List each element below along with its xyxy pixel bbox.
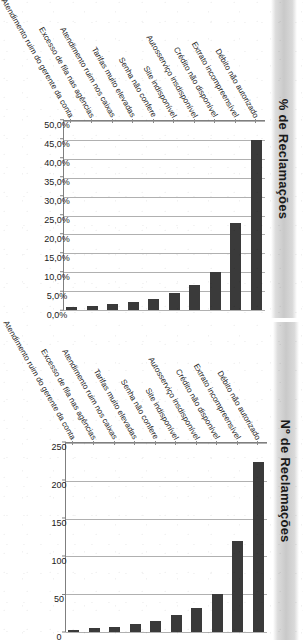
bar-row [107, 121, 118, 310]
bar-row [171, 443, 182, 632]
gridline [64, 310, 265, 311]
bar-row [253, 443, 264, 632]
chart-title-band-numero: Nº de Reclamações [273, 322, 299, 640]
category-labels-percent: Débito não autorizadoExtrato incompreens… [64, 0, 265, 120]
value-tick: 0,0% [47, 300, 64, 321]
bar-row [109, 443, 120, 632]
chart-numero-reclamacoes: Nº de Reclamações 250200150100500 Débito… [2, 322, 299, 640]
category-labels-numero: Débito não autorizadoExtrato incompreens… [66, 322, 267, 442]
value-tick: 50 [49, 589, 66, 599]
chart-percent-reclamacoes: % de Reclamações 50,0%45,0%40,0%35,0%30,… [0, 0, 297, 318]
page-title-numero: Nº de Reclamações [279, 419, 294, 542]
chart-title-band-percent: % de Reclamações [271, 0, 297, 318]
bar-row [148, 121, 159, 310]
bar-row [210, 121, 221, 310]
bar [107, 304, 118, 310]
value-tick: 5,0% [47, 281, 64, 302]
bar [89, 628, 100, 632]
plot-area-percent [64, 120, 265, 310]
value-tick: 200 [49, 472, 66, 487]
bar [109, 627, 120, 632]
bar [169, 293, 180, 310]
bars-numero [66, 443, 267, 632]
bar-row [191, 443, 202, 632]
plot-area-numero [66, 442, 267, 632]
bar-row [130, 443, 141, 632]
bar [210, 272, 221, 310]
bar-row [189, 121, 200, 310]
value-tick: 250 [49, 434, 66, 449]
bar-row [150, 443, 161, 632]
value-tick: 150 [49, 510, 66, 525]
value-tick-label: 0 [56, 632, 61, 642]
value-tick-label: 100 [51, 556, 66, 566]
page-title-percent: % de Reclamações [277, 99, 292, 219]
bar [128, 302, 139, 310]
bars-percent [64, 121, 265, 310]
bar [66, 307, 77, 310]
bar [191, 608, 202, 632]
value-axis-ticks-percent: 50,0%45,0%40,0%35,0%30,0%25,0%20,0%15,0%… [4, 120, 64, 310]
bar [87, 306, 98, 310]
bar [189, 285, 200, 310]
value-tick: 0 [49, 629, 66, 634]
bar-row [232, 443, 243, 632]
bar [251, 140, 262, 310]
bar [148, 299, 159, 310]
bar-row [89, 443, 100, 632]
category-label: Atendimento ruim do gerente da conta [2, 319, 78, 441]
bar-row [212, 443, 223, 632]
bar [253, 462, 264, 632]
bar-row [128, 121, 139, 310]
value-tick-label: 50 [54, 594, 64, 604]
bar-row [251, 121, 262, 310]
bar [150, 621, 161, 632]
bar [232, 541, 243, 632]
bar [171, 615, 182, 632]
chart-body-numero: Nº de Reclamações 250200150100500 Débito… [2, 322, 299, 640]
bar-row [87, 121, 98, 310]
chart-body-percent: % de Reclamações 50,0%45,0%40,0%35,0%30,… [0, 0, 297, 318]
value-tick-label: 200 [51, 480, 66, 490]
value-tick: 100 [49, 548, 66, 563]
value-tick-label: 250 [51, 442, 66, 452]
gridline [66, 632, 267, 633]
tick-mark [62, 631, 66, 632]
value-axis-ticks-numero: 250200150100500 [6, 442, 66, 632]
bar [68, 630, 79, 632]
bar-row [230, 121, 241, 310]
bar-row [169, 121, 180, 310]
bar [212, 594, 223, 632]
bar [230, 223, 241, 310]
bar-row [68, 443, 79, 632]
value-tick-label: 150 [51, 518, 66, 528]
bar [130, 624, 141, 632]
value-tick-label: 0,0% [47, 310, 68, 320]
